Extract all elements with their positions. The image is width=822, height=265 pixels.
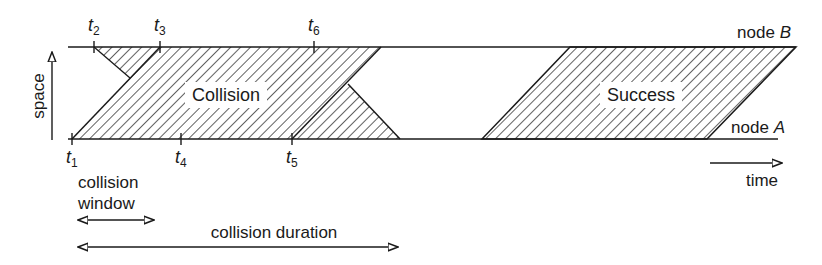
t4-label: t4 — [175, 147, 187, 170]
collision-region: Collision — [72, 47, 400, 139]
success-label: Success — [607, 85, 675, 105]
space-time-diagram: Collision Success node B node A t2 t3 t6… — [0, 0, 822, 265]
t6-label: t6 — [308, 15, 320, 38]
t5-label: t5 — [286, 147, 298, 170]
t3-label: t3 — [154, 15, 166, 38]
space-axis-label: space — [29, 73, 48, 118]
node-a-label: node A — [731, 118, 785, 137]
node-b-label: node B — [737, 23, 791, 42]
collision-window-label-line2: window — [77, 194, 135, 213]
collision-label: Collision — [192, 85, 260, 105]
collision-window-label-line1: collision — [78, 173, 138, 192]
t2-label: t2 — [88, 15, 100, 38]
t1-label: t1 — [66, 147, 78, 170]
collision-duration-label: collision duration — [211, 223, 338, 242]
time-axis-label: time — [746, 171, 778, 190]
